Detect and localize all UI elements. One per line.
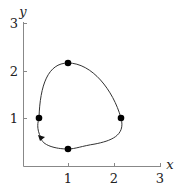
x-axis-label: x <box>166 157 174 172</box>
x-tick-label: 3 <box>156 171 164 186</box>
phase-plot: 1 2 3 1 2 3 x y <box>0 0 178 193</box>
y-tick-label: 3 <box>10 16 18 31</box>
x-tick-label: 2 <box>110 171 118 186</box>
y-tick-label: 2 <box>10 64 18 79</box>
point-top <box>65 60 72 67</box>
y-axis-label: y <box>18 4 27 19</box>
point-right <box>118 115 125 122</box>
point-bottom <box>65 146 72 153</box>
x-tick-label: 1 <box>64 171 72 186</box>
point-left <box>36 115 43 122</box>
orbit-curve <box>38 63 122 149</box>
y-tick-label: 1 <box>10 111 18 126</box>
